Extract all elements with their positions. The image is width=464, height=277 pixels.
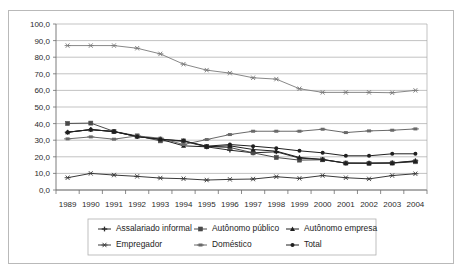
y-axis-label: 20,0	[34, 153, 50, 162]
marker-square	[66, 121, 70, 125]
marker-circle	[182, 139, 186, 143]
marker-circle	[89, 128, 93, 132]
marker-circle	[66, 130, 70, 134]
legend-label: Assalariado informal	[116, 223, 192, 233]
marker-square	[89, 121, 93, 125]
x-axis-label: 2004	[407, 200, 425, 209]
marker-circle	[321, 151, 325, 155]
marker-circle	[112, 130, 116, 134]
y-axis-label: 0,0	[39, 186, 51, 195]
y-axis-label: 40,0	[34, 120, 50, 129]
x-axis-label: 1999	[291, 200, 309, 209]
x-axis-label: 1993	[151, 200, 169, 209]
y-axis-label: 50,0	[34, 103, 50, 112]
x-axis-label: 1994	[175, 200, 193, 209]
marker-circle	[367, 154, 371, 158]
x-axis-label: 1991	[105, 200, 123, 209]
y-axis-label: 100,0	[30, 20, 51, 29]
marker-circle	[135, 135, 139, 139]
line-chart: 0,010,020,030,040,050,060,070,080,090,01…	[0, 0, 464, 277]
x-axis-label: 1998	[267, 200, 285, 209]
y-axis-label: 30,0	[34, 136, 50, 145]
x-axis-label: 2003	[383, 200, 401, 209]
legend-label: Doméstico	[212, 239, 252, 249]
y-axis-label: 90,0	[34, 37, 50, 46]
y-axis-label: 80,0	[34, 53, 50, 62]
marker-circle	[228, 143, 232, 147]
legend-label: Empregador	[116, 239, 162, 249]
marker-square	[274, 155, 278, 159]
marker-circle	[344, 154, 348, 158]
x-axis-label: 1990	[82, 200, 100, 209]
marker-circle	[413, 152, 417, 156]
marker-circle	[291, 243, 295, 247]
legend-label: Autônomo empresa	[304, 223, 377, 233]
marker-circle	[390, 152, 394, 156]
marker-circle	[297, 149, 301, 153]
marker-square	[199, 227, 203, 231]
marker-circle	[274, 146, 278, 150]
x-axis-label: 1997	[244, 200, 262, 209]
marker-circle	[205, 144, 209, 148]
y-axis-label: 10,0	[34, 169, 50, 178]
x-axis-label: 1996	[221, 200, 239, 209]
x-axis-label: 1989	[59, 200, 77, 209]
x-axis-label: 1995	[198, 200, 216, 209]
marker-circle	[251, 144, 255, 148]
x-axis-label: 1992	[128, 200, 146, 209]
y-axis-label: 60,0	[34, 86, 50, 95]
marker-circle	[158, 137, 162, 141]
x-axis-label: 2002	[360, 200, 378, 209]
x-axis-label: 2000	[314, 200, 332, 209]
y-axis-label: 70,0	[34, 70, 50, 79]
x-axis-label: 2001	[337, 200, 355, 209]
chart-container: 0,010,020,030,040,050,060,070,080,090,01…	[0, 0, 464, 277]
legend-label: Autônomo público	[212, 223, 279, 233]
legend-label: Total	[304, 239, 322, 249]
